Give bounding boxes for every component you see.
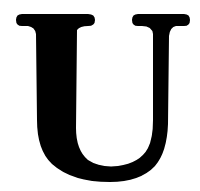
letter-u-icon xyxy=(0,0,200,191)
letter-u-glyph: U xyxy=(0,0,200,191)
